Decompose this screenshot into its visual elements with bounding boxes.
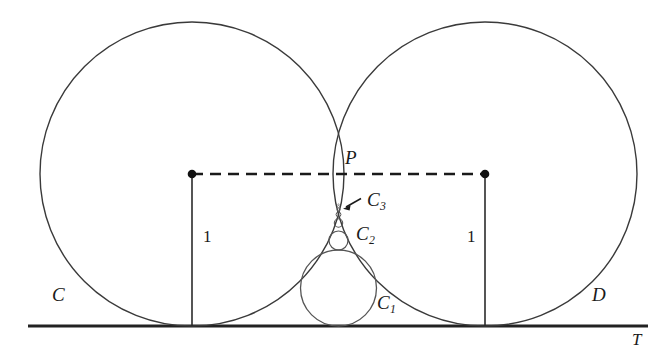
chain-circle-c2 (329, 231, 348, 250)
label-chain-c1-subscript: 1 (390, 303, 396, 316)
label-radius-left: 1 (203, 228, 212, 245)
label-chain-c3: C3 (367, 190, 386, 209)
label-chain-c2: C2 (356, 224, 375, 243)
center-dot-right (481, 170, 490, 179)
chain-circle-c7 (338, 204, 340, 206)
chain-circle-c6 (337, 206, 339, 208)
label-chain-c1-base: C (377, 292, 390, 313)
geometry-figure: C D P T 1 1 C1 C2 C3 (0, 0, 668, 349)
label-circle-c: C (52, 285, 65, 304)
label-chain-c3-base: C (367, 189, 380, 210)
label-chain-c1: C1 (377, 293, 396, 312)
label-point-p: P (345, 148, 357, 167)
chain-circle-c1 (301, 250, 377, 326)
label-radius-right: 1 (467, 228, 476, 245)
label-chain-c3-subscript: 3 (380, 200, 386, 213)
arrow-to-c3 (343, 199, 361, 211)
diagram-canvas (0, 0, 668, 349)
label-chain-c2-subscript: 2 (369, 234, 375, 247)
label-tangent-line-t: T (632, 331, 641, 348)
label-circle-d: D (592, 285, 606, 304)
label-chain-c2-base: C (356, 223, 369, 244)
center-dot-left (188, 170, 197, 179)
